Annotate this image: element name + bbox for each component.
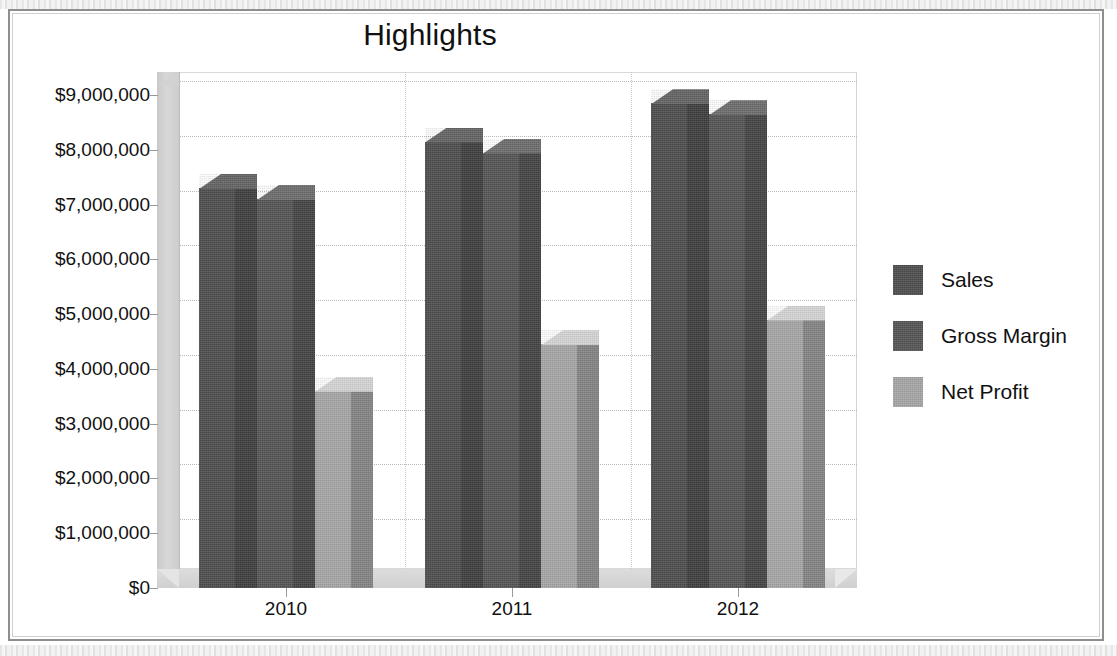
legend-item-net-profit[interactable]: Net Profit xyxy=(893,364,1103,420)
bar-net-profit-2010[interactable] xyxy=(315,377,373,588)
bar-net-profit-2011[interactable] xyxy=(541,330,599,588)
bar-top-face xyxy=(315,377,373,392)
bar-top-face xyxy=(651,89,709,104)
scan-noise-band-bottom xyxy=(0,645,1117,656)
bar-top-face xyxy=(483,139,541,154)
bar-side-face xyxy=(519,139,541,588)
bar-front-face xyxy=(767,320,803,588)
bar-front-face xyxy=(541,344,577,588)
halftone-texture xyxy=(893,265,923,295)
bar-sales-2011[interactable] xyxy=(425,128,483,588)
bar-top-face xyxy=(709,100,767,115)
scan-noise-band-top xyxy=(0,0,1117,9)
legend-label: Net Profit xyxy=(941,380,1029,404)
bar-top-face xyxy=(767,306,825,321)
legend-label: Sales xyxy=(941,268,994,292)
bar-side-face xyxy=(803,306,825,588)
legend-item-gross-margin[interactable]: Gross Margin xyxy=(893,308,1103,364)
bar-side-face xyxy=(461,128,483,588)
legend-swatch-icon xyxy=(893,321,923,351)
bar-gross-margin-2011[interactable] xyxy=(483,139,541,588)
bar-top-face xyxy=(541,330,599,345)
bar-side-face xyxy=(293,185,315,588)
legend-swatch-icon xyxy=(893,265,923,295)
halftone-texture xyxy=(893,321,923,351)
bar-top-face xyxy=(199,174,257,189)
bar-side-face xyxy=(351,377,373,588)
bar-gross-margin-2012[interactable] xyxy=(709,100,767,588)
bar-side-face xyxy=(687,89,709,588)
bar-net-profit-2012[interactable] xyxy=(767,306,825,588)
bar-front-face xyxy=(315,391,351,588)
bar-sales-2012[interactable] xyxy=(651,89,709,588)
bar-sales-2010[interactable] xyxy=(199,174,257,588)
bar-front-face xyxy=(199,188,235,588)
bar-side-face xyxy=(235,174,257,588)
bar-front-face xyxy=(651,103,687,588)
bar-front-face xyxy=(425,142,461,588)
legend-item-sales[interactable]: Sales xyxy=(893,252,1103,308)
halftone-texture xyxy=(893,377,923,407)
chart-legend: SalesGross MarginNet Profit xyxy=(893,252,1103,420)
bar-gross-margin-2010[interactable] xyxy=(257,185,315,588)
bar-front-face xyxy=(257,199,293,588)
bar-top-face xyxy=(425,128,483,143)
legend-label: Gross Margin xyxy=(941,324,1067,348)
chart-title: Highlights xyxy=(0,18,860,52)
bar-front-face xyxy=(709,114,745,588)
legend-swatch-icon xyxy=(893,377,923,407)
bar-top-face xyxy=(257,185,315,200)
scanned-chart-page: Highlights $0$1,000,000$2,000,000$3,000,… xyxy=(0,0,1117,656)
bar-side-face xyxy=(745,100,767,588)
bar-side-face xyxy=(577,330,599,588)
bar-front-face xyxy=(483,153,519,588)
